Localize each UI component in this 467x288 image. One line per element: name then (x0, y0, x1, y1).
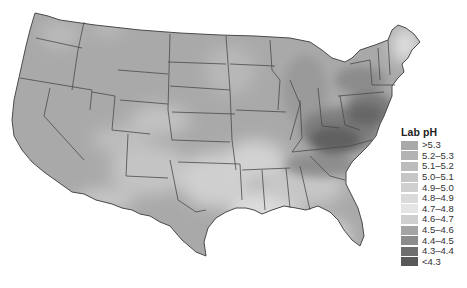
legend-swatch (401, 257, 418, 266)
legend-swatch (401, 194, 418, 203)
legend-item: >5.3 (401, 140, 467, 151)
legend-label: <4.3 (422, 257, 441, 267)
legend-label: 4.3–4.4 (422, 246, 454, 256)
legend-swatch (401, 141, 418, 150)
legend-swatch (401, 162, 418, 171)
legend-swatch (401, 204, 418, 213)
legend-swatch (401, 236, 418, 245)
legend-label: 5.0–5.1 (422, 172, 454, 182)
legend-item: 4.3–4.4 (401, 246, 467, 257)
legend-swatch (401, 183, 418, 192)
legend-swatch (401, 247, 418, 256)
legend-label: 4.7–4.8 (422, 204, 454, 214)
legend-label: 4.9–5.0 (422, 183, 454, 193)
legend-items: >5.3 5.2–5.3 5.1–5.2 5.0–5.1 4.9–5.0 4.8… (401, 140, 467, 267)
legend-label: 4.8–4.9 (422, 193, 454, 203)
us-ph-map (0, 0, 467, 288)
legend: Lab pH >5.3 5.2–5.3 5.1–5.2 5.0–5.1 4.9–… (401, 126, 467, 267)
legend-swatch (401, 151, 418, 160)
legend-label: 4.6–4.7 (422, 214, 454, 224)
legend-item: <4.3 (401, 257, 467, 268)
legend-item: 4.5–4.6 (401, 225, 467, 236)
legend-swatch (401, 173, 418, 182)
legend-swatch (401, 226, 418, 235)
legend-label: 4.4–4.5 (422, 236, 454, 246)
legend-item: 4.8–4.9 (401, 193, 467, 204)
legend-item: 5.0–5.1 (401, 172, 467, 183)
legend-label: 4.5–4.6 (422, 225, 454, 235)
legend-label: 5.2–5.3 (422, 151, 454, 161)
legend-title: Lab pH (401, 126, 467, 138)
legend-label: 5.1–5.2 (422, 161, 454, 171)
ph-shading (0, 0, 467, 288)
legend-label: >5.3 (422, 140, 441, 150)
legend-swatch (401, 215, 418, 224)
